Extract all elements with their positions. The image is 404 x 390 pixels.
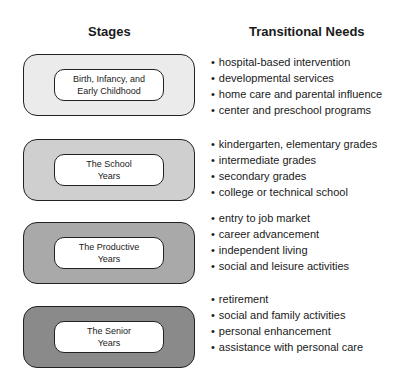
stage-label-line2: Early Childhood xyxy=(77,85,141,97)
needs-list-school-years: kindergarten, elementary grades intermed… xyxy=(211,136,377,200)
stage-box-early-childhood: Birth, Infancy, and Early Childhood xyxy=(23,54,195,116)
need-item: entry to job market xyxy=(211,210,349,226)
need-item: retirement xyxy=(211,291,363,307)
stage-box-productive-years: The Productive Years xyxy=(23,222,195,284)
stages-header: Stages xyxy=(88,24,131,39)
need-item: hospital-based intervention xyxy=(211,54,382,70)
stage-label-line1: Birth, Infancy, and xyxy=(73,73,145,85)
stage-label-box: The School Years xyxy=(54,154,164,186)
stage-box-school-years: The School Years xyxy=(23,139,195,201)
need-item: secondary grades xyxy=(211,168,377,184)
need-item: social and leisure activities xyxy=(211,258,349,274)
need-item: personal enhancement xyxy=(211,323,363,339)
stage-label-line1: The Senior xyxy=(87,325,131,337)
need-item: home care and parental influence xyxy=(211,86,382,102)
stage-label-line2: Years xyxy=(98,253,121,265)
need-item: intermediate grades xyxy=(211,152,377,168)
need-item: college or technical school xyxy=(211,184,377,200)
need-item: social and family activities xyxy=(211,307,363,323)
stage-label-line1: The School xyxy=(86,158,132,170)
stage-label-line1: The Productive xyxy=(79,241,140,253)
need-item: developmental services xyxy=(211,70,382,86)
stage-label-box: Birth, Infancy, and Early Childhood xyxy=(54,69,164,101)
needs-list-early-childhood: hospital-based intervention developmenta… xyxy=(211,54,382,118)
needs-list-productive-years: entry to job market career advancement i… xyxy=(211,210,349,274)
stage-label-line2: Years xyxy=(98,170,121,182)
need-item: independent living xyxy=(211,242,349,258)
stage-label-box: The Senior Years xyxy=(54,321,164,353)
need-item: kindergarten, elementary grades xyxy=(211,136,377,152)
stage-label-box: The Productive Years xyxy=(54,237,164,269)
stage-label-line2: Years xyxy=(98,337,121,349)
stage-box-senior-years: The Senior Years xyxy=(23,306,195,368)
need-item: center and preschool programs xyxy=(211,102,382,118)
needs-list-senior-years: retirement social and family activities … xyxy=(211,291,363,355)
need-item: career advancement xyxy=(211,226,349,242)
need-item: assistance with personal care xyxy=(211,339,363,355)
transitional-needs-header: Transitional Needs xyxy=(249,24,365,39)
